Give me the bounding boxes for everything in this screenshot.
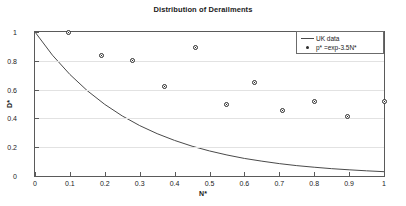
x-tick-mark [279, 172, 280, 176]
x-tick-mark [349, 172, 350, 176]
x-tick-mark [314, 172, 315, 176]
x-tick-mark [244, 172, 245, 176]
x-tick-label: 0.4 [160, 180, 190, 187]
chart-screenshot: Distribution of Derailments 00.20.40.60.… [0, 0, 406, 206]
y-tick-mark [35, 118, 39, 119]
legend-item-label: p* =exp-3.5N* [314, 44, 357, 51]
dot-sample-icon [300, 43, 314, 52]
x-tick-mark [35, 172, 36, 176]
y-tick-mark [35, 61, 39, 62]
scatter-marker [66, 30, 71, 35]
y-tick-mark [35, 176, 39, 177]
x-tick-mark [175, 172, 176, 176]
x-tick-label: 0.6 [229, 180, 259, 187]
scatter-marker [162, 84, 167, 89]
x-tick-label: 0.1 [55, 180, 85, 187]
y-tick-label: 0 [0, 173, 17, 180]
x-tick-label: 0.7 [264, 180, 294, 187]
y-tick-label: 0.4 [0, 115, 17, 122]
y-tick-label: 0.2 [0, 144, 17, 151]
y-tick-label: 1 [0, 29, 17, 36]
legend-item-uk-data: UK data [300, 34, 380, 43]
x-tick-label: 0.2 [90, 180, 120, 187]
gridline [35, 61, 384, 62]
x-tick-label: 0.8 [299, 180, 329, 187]
y-tick-label: 0.8 [0, 57, 17, 64]
x-tick-label: 0.3 [125, 180, 155, 187]
x-tick-mark [105, 172, 106, 176]
y-tick-label: 0.6 [0, 86, 17, 93]
legend-item-exp-model: p* =exp-3.5N* [300, 43, 380, 52]
x-tick-label: 0.9 [334, 180, 364, 187]
x-tick-mark [140, 172, 141, 176]
x-tick-mark [210, 172, 211, 176]
x-tick-label: 0 [20, 180, 50, 187]
scatter-marker [312, 99, 317, 104]
x-axis-title: N* [0, 190, 406, 197]
x-tick-mark [384, 172, 385, 176]
x-tick-label: 0.5 [195, 180, 225, 187]
chart-legend: UK data p* =exp-3.5N* [296, 31, 384, 54]
x-tick-label: 1 [369, 180, 399, 187]
y-tick-mark [35, 90, 39, 91]
legend-item-label: UK data [314, 35, 340, 42]
line-sample-icon [300, 34, 314, 43]
x-tick-mark [70, 172, 71, 176]
scatter-marker [382, 99, 387, 104]
gridline [35, 147, 384, 148]
gridline [35, 90, 384, 91]
page-title: Distribution of Derailments [0, 5, 406, 14]
y-axis-title: D* [6, 100, 13, 108]
y-tick-mark [35, 147, 39, 148]
gridline [35, 118, 384, 119]
y-tick-mark [35, 32, 39, 33]
